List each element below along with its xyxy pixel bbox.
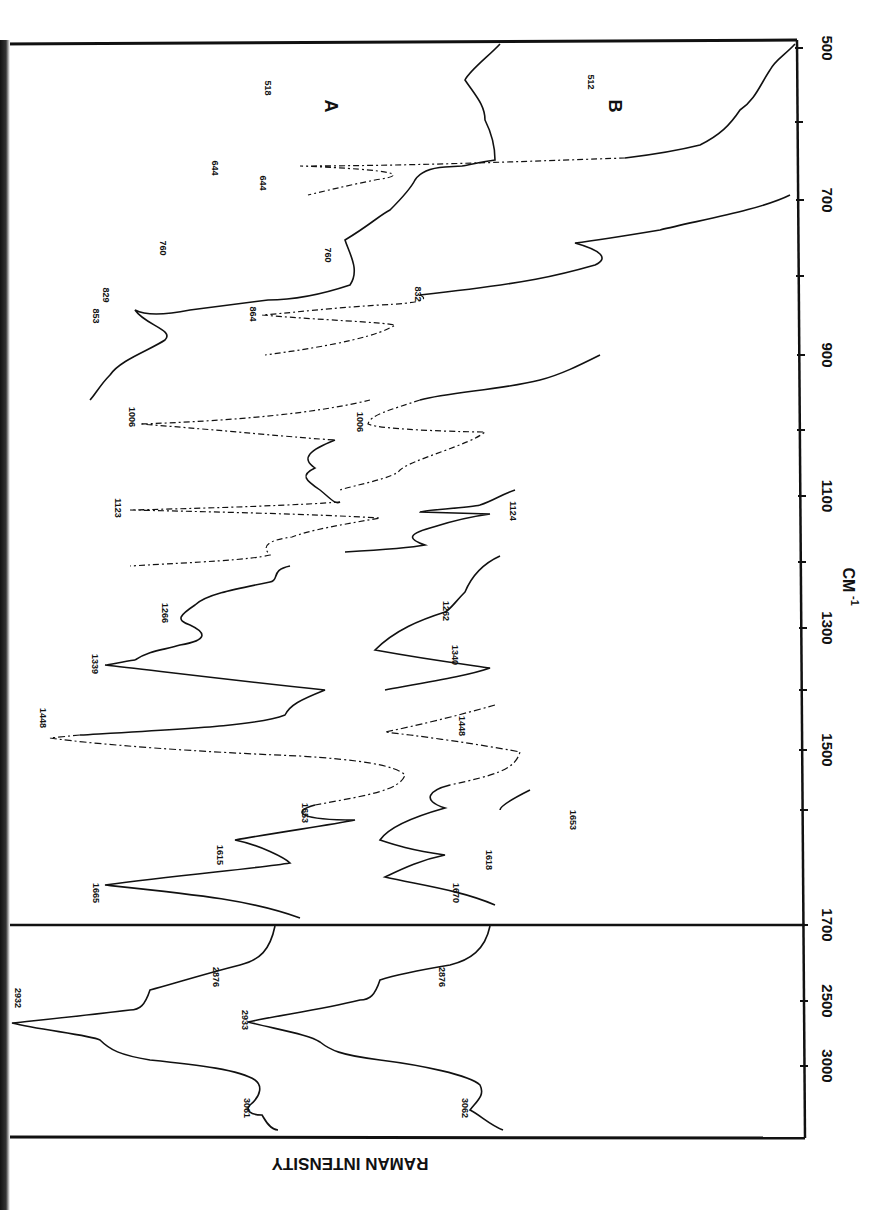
x-axis-title-sup: -1	[849, 596, 861, 606]
peak-label-a-1266: 1266	[160, 603, 170, 623]
series-label-b: B	[605, 100, 625, 113]
peak-label-b-1448: 1448	[457, 716, 467, 736]
peak-label-a-644: 644	[210, 160, 220, 175]
spectrum-a-1550-1700	[105, 805, 355, 918]
peak-label-b-512: 512	[586, 74, 596, 89]
tick-label-1300: 1300	[819, 611, 836, 644]
x-axis-title: CM -1	[840, 568, 861, 606]
peak-label-b-1618: 1618	[484, 850, 494, 870]
peak-label-b-2933: 2933	[240, 1010, 250, 1030]
spectrum-b-644	[300, 158, 625, 195]
tick-label-3000: 3000	[819, 1049, 836, 1082]
peak-label-a-3061: 3061	[242, 1098, 252, 1118]
peak-label-a-1615: 1615	[215, 845, 225, 865]
peak-label-a-2876: 2876	[211, 967, 221, 987]
peak-label-b-760: 760	[323, 247, 333, 262]
tick-label-1700: 1700	[819, 908, 836, 941]
peak-label-a-1339: 1339	[90, 654, 100, 674]
spectrum-b-832-864	[262, 295, 424, 355]
x-axis-title-main: CM	[840, 568, 857, 593]
peak-label-a-1123: 1123	[113, 498, 123, 518]
spectrum-a-1006	[140, 400, 370, 440]
peak-label-a-1665: 1665	[91, 883, 101, 903]
tick-label-500: 500	[819, 35, 836, 60]
peak-label-b-644: 644	[258, 175, 268, 190]
peak-label-b-1006: 1006	[355, 412, 365, 432]
y-axis-title: RAMAN INTENSITY	[271, 1154, 428, 1173]
spectrum-b-700-760	[420, 195, 790, 295]
peak-label-b-1670: 1670	[451, 883, 461, 903]
spectrum-a-1000-1100	[306, 440, 340, 503]
peak-label-b-1124: 1124	[508, 501, 518, 521]
peak-label-a-1653: 1653	[300, 803, 310, 823]
spectrum-b-900-1006	[420, 355, 600, 400]
spectrum-a-1448	[50, 735, 405, 805]
spectrum-a-high	[12, 926, 278, 1130]
series-label-a: A	[321, 100, 341, 113]
spectrum-a-1339-1448	[80, 660, 325, 735]
peak-label-a-853: 853	[91, 308, 101, 323]
peak-label-a-760: 760	[158, 240, 168, 255]
tick-label-700: 700	[819, 187, 836, 212]
tick-label-1500: 1500	[819, 733, 836, 766]
spectrum-a-low	[90, 44, 500, 400]
tick-label-2500: 2500	[819, 984, 836, 1017]
peak-label-b-3062: 3062	[460, 1098, 470, 1118]
spectrum-b-1200-1340	[375, 556, 500, 690]
peak-label-b-1262: 1262	[441, 601, 451, 621]
peak-label-b-832: 832	[413, 286, 423, 301]
spectrum-b-1448	[385, 705, 520, 785]
spectrum-a-1123	[130, 502, 380, 566]
x-axis-tick-labels: 500 700 900 1100 1300 1500 1700 2500 300…	[819, 35, 836, 1082]
peak-label-a-518: 518	[263, 80, 273, 95]
spectrum-b-low	[625, 44, 795, 158]
peak-label-a-2932: 2932	[13, 988, 23, 1008]
peak-label-a-829: 829	[101, 287, 111, 302]
scan-edge-shadow	[0, 40, 10, 1210]
spectrum-b-1124	[345, 490, 515, 552]
peak-label-a-1448: 1448	[38, 708, 48, 728]
peak-label-b-2876: 2876	[437, 967, 447, 987]
peak-label-a-1006: 1006	[127, 407, 137, 427]
peak-labels-b: 512 644 760 832 864 1006 1124 1262 1340 …	[240, 74, 596, 1118]
peak-label-b-1340: 1340	[450, 645, 460, 665]
peak-label-b-1653: 1653	[568, 810, 578, 830]
tick-label-1100: 1100	[819, 480, 836, 513]
peak-labels-a: 518 644 760 829 853 1006 1123 1266 1339 …	[13, 80, 310, 1118]
tick-label-900: 900	[819, 342, 836, 367]
peak-label-b-864: 864	[248, 306, 258, 321]
spectrum-a-1200-1339	[135, 566, 290, 660]
